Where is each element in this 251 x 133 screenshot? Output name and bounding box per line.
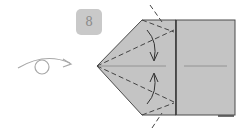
origami-diagram (0, 0, 251, 133)
paper-shape (97, 20, 235, 116)
turn-over-icon (18, 59, 71, 74)
